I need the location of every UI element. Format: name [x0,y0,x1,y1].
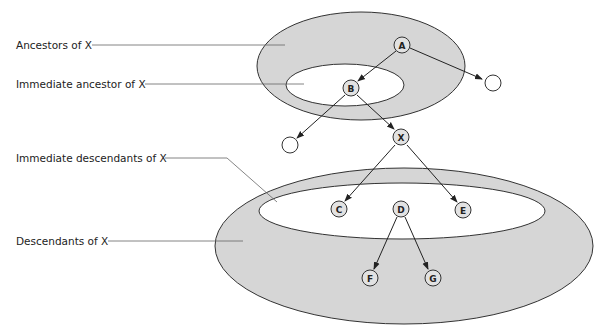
label-immediate-ancestor: Immediate ancestor of X [16,78,146,90]
node-f: F [362,270,378,286]
svg-text:E: E [460,206,466,216]
node-a: A [394,37,410,53]
svg-text:G: G [429,274,436,284]
node-d: D [393,201,409,217]
label-ancestors: Ancestors of X [16,39,92,51]
svg-text:F: F [367,274,373,284]
empty-node-left [282,137,298,153]
empty-node-right [485,75,501,91]
svg-text:B: B [348,84,355,94]
svg-text:X: X [398,133,405,143]
node-c: C [331,201,347,217]
node-g: G [425,270,441,286]
svg-text:D: D [397,205,404,215]
label-immediate-descendants: Immediate descendants of X [16,152,167,164]
node-x: X [393,129,409,145]
svg-text:C: C [336,205,343,215]
node-e: E [455,202,471,218]
svg-text:A: A [399,41,406,51]
node-b: B [343,80,359,96]
label-descendants: Descendants of X [16,235,108,247]
